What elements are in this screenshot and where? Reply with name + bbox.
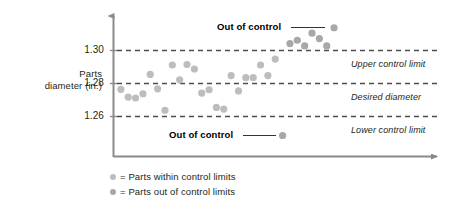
out-of-control-callout-upper: Out of control (217, 21, 281, 32)
data-point (205, 86, 212, 93)
data-point (183, 61, 190, 68)
y-tick-label-1-30: 1.30 (64, 44, 104, 55)
lower-control-limit-label: Lower control limit (351, 125, 425, 135)
data-point (191, 65, 198, 72)
out-of-control-callout-lower: Out of control (169, 129, 233, 140)
data-point (286, 40, 293, 47)
y-tick-label-1-28: 1.28 (64, 77, 104, 88)
data-point (308, 30, 315, 37)
legend-label-outside: = Parts out of control limits (120, 186, 235, 197)
legend-dot-within-limits (110, 174, 116, 180)
data-point (257, 61, 264, 68)
legend-item-within: = Parts within control limits (110, 171, 236, 182)
legend-item-outside: = Parts out of control limits (110, 186, 235, 197)
data-point (323, 42, 330, 49)
data-point (176, 76, 183, 83)
data-point (139, 90, 146, 97)
data-point (154, 85, 161, 92)
data-point (220, 105, 227, 112)
data-point (242, 74, 249, 81)
data-point (117, 86, 124, 93)
y-tick-label-1-26: 1.26 (64, 110, 104, 121)
data-point (294, 37, 301, 44)
legend-dot-out-of-limits (110, 189, 116, 195)
data-point (147, 71, 154, 78)
desired-diameter-label: Desired diameter (351, 92, 421, 102)
data-point (330, 24, 337, 31)
data-point (316, 35, 323, 42)
data-point (272, 55, 279, 62)
data-point (132, 94, 139, 101)
data-point (213, 104, 220, 111)
data-point (198, 89, 205, 96)
upper-control-limit-label: Upper control limit (351, 59, 425, 69)
data-point (235, 87, 242, 94)
data-point (279, 132, 286, 139)
data-point (161, 107, 168, 114)
data-point-layer (117, 24, 337, 139)
data-point (125, 93, 132, 100)
control-chart: Parts diameter (in.) 1.30 1.28 1.26 Uppe… (0, 0, 461, 205)
data-point (250, 74, 257, 81)
data-point (228, 72, 235, 79)
data-point (169, 61, 176, 68)
legend-label-within: = Parts within control limits (120, 171, 236, 182)
data-point (264, 72, 271, 79)
data-point (301, 42, 308, 49)
